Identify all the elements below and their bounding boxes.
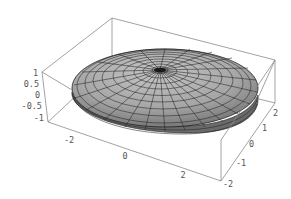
- x-tick: -2: [64, 135, 74, 145]
- x-tick: 2: [180, 170, 185, 180]
- y-tick: -2: [223, 179, 233, 189]
- z-tick: 0.5: [24, 79, 39, 89]
- y-tick: 0: [249, 139, 254, 149]
- z-tick: -0.5: [22, 101, 42, 111]
- pole-marker: [154, 67, 166, 72]
- ellipsoid-surface: [72, 49, 258, 134]
- z-tick: 0: [35, 90, 40, 100]
- z-tick: 1: [33, 68, 38, 78]
- y-tick: 1: [262, 123, 267, 133]
- x-axis-labels: -2 0 2: [64, 135, 186, 180]
- ellipsoid-3d-plot: 1 0.5 0 -0.5 -1 -2 0 2 2 1 0 -1 -2: [0, 0, 291, 199]
- y-tick: -1: [236, 158, 246, 168]
- z-tick: -1: [34, 113, 44, 123]
- z-axis-labels: 1 0.5 0 -0.5 -1: [22, 68, 44, 123]
- y-tick: 2: [273, 108, 278, 118]
- x-tick: 0: [122, 151, 127, 161]
